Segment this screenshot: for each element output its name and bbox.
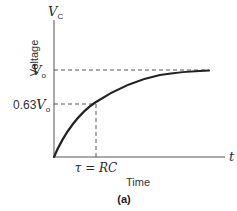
x-axis-symbol: t: [229, 149, 235, 164]
charging-curve: [54, 71, 209, 158]
figure-caption: (a): [117, 193, 131, 205]
x-axis-label: Time: [126, 176, 150, 188]
charging-curve-chart: VC Voltage Vo 0.63Vo τ = RC t Time (a): [0, 0, 237, 211]
time-constant-level-label: 0.63Vo: [13, 97, 51, 114]
time-constant-label: τ = RC: [75, 161, 118, 175]
y-axis-symbol: VC: [48, 4, 63, 21]
asymptote-label: Vo: [32, 63, 46, 80]
